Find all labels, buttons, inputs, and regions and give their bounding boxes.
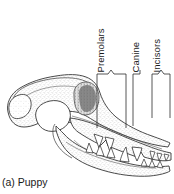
figure-container: Premolars Canine Incisors (a) Puppy — [0, 0, 174, 194]
figure-caption: (a) Puppy — [2, 176, 48, 188]
lower-molar-1 — [86, 143, 93, 153]
skull-group — [8, 75, 172, 177]
leader-canine — [133, 72, 140, 126]
lower-molar-2 — [96, 145, 104, 156]
upper-premolar-2 — [105, 137, 114, 152]
label-incisors: Incisors — [152, 39, 162, 73]
zygomatic-arch — [36, 101, 71, 132]
bracket-incisors — [152, 70, 170, 118]
label-canine: Canine — [131, 42, 141, 73]
lower-incisor-1 — [141, 159, 147, 166]
lower-incisor-3 — [157, 161, 163, 168]
puppy-skull-illustration — [0, 0, 174, 194]
label-premolars: Premolars — [96, 28, 106, 72]
lower-incisor-2 — [149, 160, 155, 167]
